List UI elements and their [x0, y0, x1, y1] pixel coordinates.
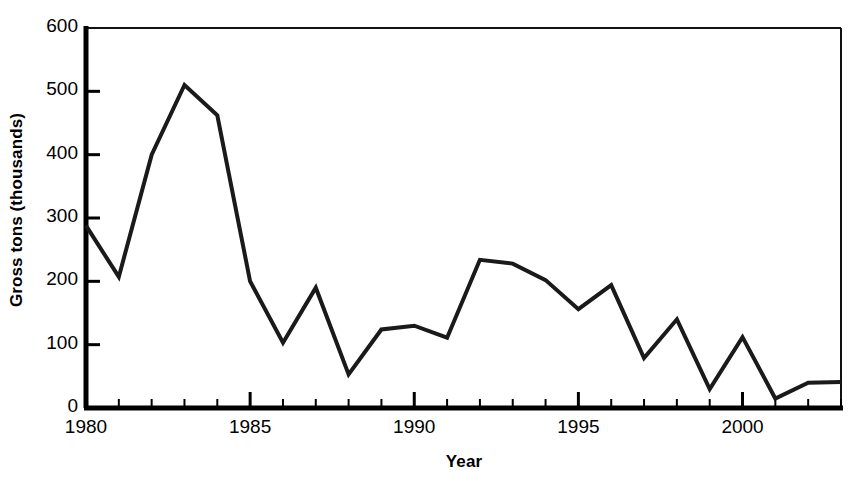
y-tick-label: 500 [18, 78, 78, 100]
x-tick-label: 1985 [210, 416, 290, 438]
x-axis-title-label: Year [446, 452, 482, 471]
y-tick-label: 100 [18, 332, 78, 354]
x-tick-label: 1995 [538, 416, 618, 438]
y-tick-label: 400 [18, 142, 78, 164]
data-series-line [86, 85, 841, 399]
x-tick-label: 2000 [703, 416, 783, 438]
x-axis-ticks [86, 392, 841, 406]
y-tick-label: 600 [18, 15, 78, 37]
x-tick-label: 1980 [46, 416, 126, 438]
plot-frame [84, 26, 843, 408]
x-tick-label: 1990 [374, 416, 454, 438]
x-axis-title: Year [86, 452, 842, 472]
y-tick-label: 300 [18, 205, 78, 227]
y-tick-label: 0 [18, 395, 78, 417]
plot-area [0, 0, 852, 484]
y-tick-label: 200 [18, 268, 78, 290]
line-chart: Gross tons (thousands) 01002003004005006… [0, 0, 852, 484]
